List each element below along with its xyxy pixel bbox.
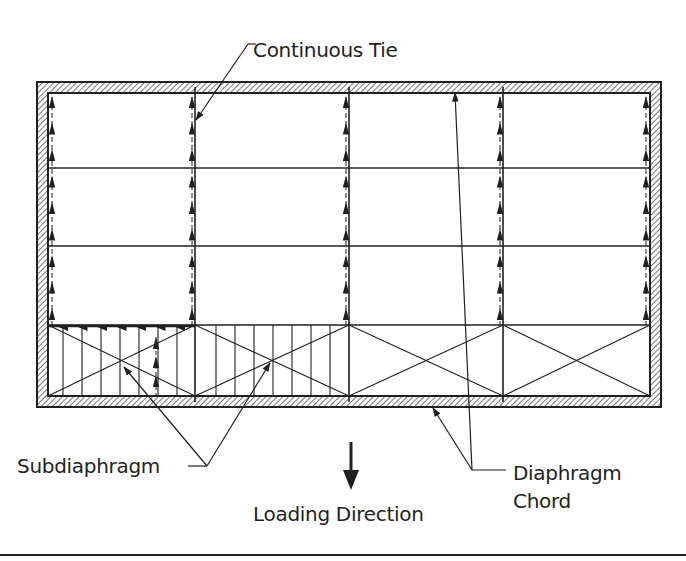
tie-arrowhead-icon bbox=[643, 176, 649, 188]
loading-direction-label: Loading Direction bbox=[253, 502, 424, 526]
tie-arrowhead-icon bbox=[49, 282, 55, 294]
bottom-rule-divider bbox=[0, 554, 686, 556]
tie-arrowhead-icon bbox=[643, 282, 649, 294]
tie-arrowhead-icon bbox=[49, 308, 55, 320]
tie-arrowhead-icon bbox=[643, 149, 649, 161]
continuous-tie-label: Continuous Tie bbox=[253, 38, 398, 62]
diaphragm-chord-leader bbox=[455, 93, 472, 470]
tie-arrowhead-icon bbox=[643, 123, 649, 135]
tie-arrowhead-icon bbox=[49, 123, 55, 135]
tie-arrowhead-icon bbox=[643, 229, 649, 241]
loading-direction-arrow-icon bbox=[343, 442, 359, 490]
loading-arrowhead-icon bbox=[343, 470, 359, 490]
tie-arrowhead-icon bbox=[49, 255, 55, 267]
diaphragm-chord-label-line1: Diaphragm bbox=[513, 459, 622, 487]
tie-arrowhead-icon bbox=[49, 176, 55, 188]
tie-arrowhead-icon bbox=[643, 308, 649, 320]
tie-arrowhead-icon bbox=[49, 229, 55, 241]
tie-arrowhead-icon bbox=[49, 96, 55, 108]
subdiaphragm-label: Subdiaphragm bbox=[17, 454, 160, 478]
tie-arrowhead-icon bbox=[643, 255, 649, 267]
diaphragm-chord-label: Diaphragm Chord bbox=[513, 459, 622, 515]
tie-arrowhead-icon bbox=[643, 202, 649, 214]
diaphragm-chord-leader bbox=[433, 408, 472, 470]
subdiaphragm-bays bbox=[48, 325, 330, 396]
tie-arrowhead-icon bbox=[49, 202, 55, 214]
tie-arrowhead-icon bbox=[643, 96, 649, 108]
diaphragm-chord-label-line2: Chord bbox=[513, 487, 622, 515]
tie-arrowhead-icon bbox=[49, 149, 55, 161]
